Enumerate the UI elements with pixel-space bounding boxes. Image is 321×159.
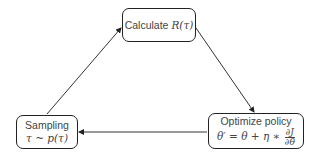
- node-optimize-label: Optimize policy: [220, 115, 291, 128]
- node-calculate-reward: Calculate R(τ): [122, 8, 196, 42]
- node-optimize-formula: θ′ = θ + η ∗ ∂J ∂θ: [217, 128, 295, 147]
- node-sampling: Sampling τ ~ p(τ): [16, 115, 78, 149]
- node-calculate-math: R(τ): [171, 19, 193, 31]
- edge-sampling-to-calculate: [47, 28, 121, 114]
- node-sampling-label: Sampling: [25, 119, 69, 132]
- node-optimize-fraction: ∂J ∂θ: [285, 128, 295, 147]
- node-optimize-math-lhs: θ′ = θ + η ∗: [217, 130, 280, 142]
- node-calculate-text: Calculate R(τ): [125, 19, 194, 32]
- node-optimize-policy: Optimize policy θ′ = θ + η ∗ ∂J ∂θ: [208, 113, 304, 149]
- node-calculate-label: Calculate: [125, 19, 169, 31]
- edge-calculate-to-optimize: [196, 28, 254, 112]
- fraction-denominator: ∂θ: [285, 138, 295, 147]
- node-sampling-math: τ ~ p(τ): [26, 132, 68, 145]
